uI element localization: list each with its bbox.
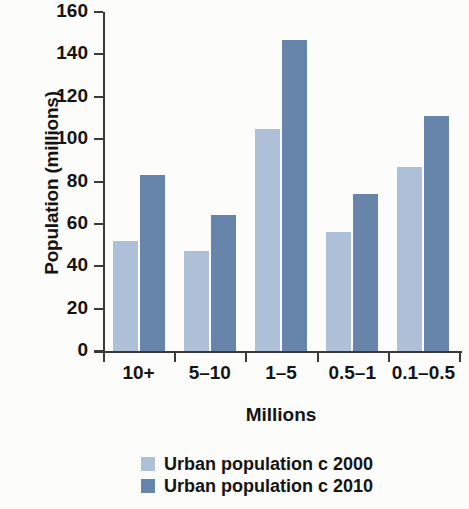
bar — [397, 167, 422, 351]
bar — [424, 116, 449, 351]
y-axis-tick: 160 — [94, 11, 103, 13]
y-axis-tick-label: 60 — [67, 212, 88, 234]
x-axis-tick-labels: 10+5–101–50.5–10.1–0.5 — [103, 362, 459, 388]
y-axis-tick: 0 — [94, 350, 103, 352]
x-axis-tick — [103, 353, 105, 362]
y-axis-tick: 140 — [94, 53, 103, 55]
legend-item: Urban population c 2000 — [141, 453, 441, 475]
legend-swatch-icon — [141, 457, 155, 471]
bar-chart-figure: Population (millions) 160140120100806040… — [0, 0, 469, 509]
x-axis-tick — [245, 353, 247, 362]
bar — [255, 129, 280, 351]
y-axis-tick-label: 20 — [67, 297, 88, 319]
y-axis-tick-label: 0 — [77, 339, 88, 361]
bar — [353, 194, 378, 351]
legend-swatch-icon — [141, 479, 155, 493]
plot-area: 160140120100806040200 — [103, 12, 459, 351]
bar — [282, 40, 307, 351]
x-axis-tick — [388, 353, 390, 362]
x-axis-tick-label: 10+ — [103, 362, 174, 384]
x-axis-tick-label: 0.1–0.5 — [388, 362, 459, 384]
y-axis-tick: 60 — [94, 223, 103, 225]
y-axis-tick-label: 40 — [67, 254, 88, 276]
bar — [184, 251, 209, 351]
y-axis-tick-label: 140 — [56, 42, 88, 64]
bars-layer — [103, 12, 459, 351]
bar — [211, 215, 236, 351]
legend-item: Urban population c 2010 — [141, 475, 441, 497]
x-axis-title: Millions — [103, 404, 459, 426]
y-axis-tick-label: 100 — [56, 127, 88, 149]
y-axis-tick: 120 — [94, 96, 103, 98]
bar — [326, 232, 351, 351]
x-axis-tick — [174, 353, 176, 362]
y-axis-tick: 80 — [94, 181, 103, 183]
x-axis-tick — [459, 353, 461, 362]
y-axis-tick-label: 80 — [67, 170, 88, 192]
x-axis-line — [94, 351, 462, 353]
y-axis-tick-label: 120 — [56, 85, 88, 107]
x-axis-tick — [317, 353, 319, 362]
x-axis-tick-label: 0.5–1 — [317, 362, 388, 384]
legend-label: Urban population c 2010 — [164, 476, 373, 497]
bar — [113, 241, 138, 351]
x-axis-tick-label: 5–10 — [174, 362, 245, 384]
chart-legend: Urban population c 2000Urban population … — [141, 453, 441, 497]
y-axis-tick-label: 160 — [56, 0, 88, 22]
x-axis-tick-label: 1–5 — [245, 362, 316, 384]
bar — [140, 175, 165, 351]
y-axis-tick: 40 — [94, 265, 103, 267]
y-axis-tick: 20 — [94, 308, 103, 310]
y-axis-tick: 100 — [94, 138, 103, 140]
legend-label: Urban population c 2000 — [164, 454, 373, 475]
